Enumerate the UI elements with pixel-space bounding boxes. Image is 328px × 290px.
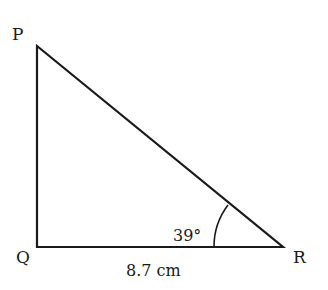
vertex-label-p: P <box>12 24 23 44</box>
vertex-label-r: R <box>293 247 307 267</box>
angle-label-r: 39° <box>173 226 201 245</box>
triangle-pqr <box>37 46 283 247</box>
angle-arc-r <box>214 205 228 247</box>
triangle-diagram: P Q R 39° 8.7 cm <box>0 0 328 290</box>
vertex-label-q: Q <box>16 247 30 267</box>
side-label-qr: 8.7 cm <box>126 261 181 280</box>
